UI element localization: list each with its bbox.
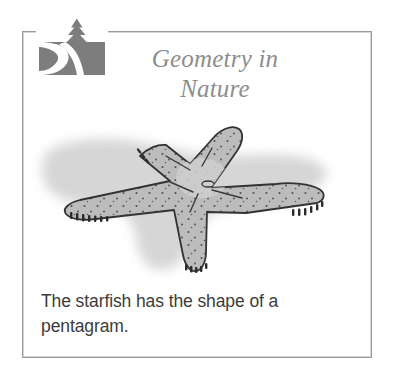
- caption-text: The starfish has the shape of a pentagra…: [41, 289, 351, 339]
- page-title-line-2: Nature: [115, 74, 315, 104]
- starfish-illustration: [30, 112, 365, 277]
- madreporite: [202, 181, 214, 187]
- caption-line-2: pentagram.: [41, 314, 351, 339]
- nature-river-tree-logo: [36, 18, 108, 78]
- geometry-in-nature-card: Geometry in Nature: [0, 0, 403, 375]
- page-title: Geometry in Nature: [115, 44, 315, 104]
- caption-line-1: The starfish has the shape of a: [41, 289, 351, 314]
- page-title-line-1: Geometry in: [115, 44, 315, 74]
